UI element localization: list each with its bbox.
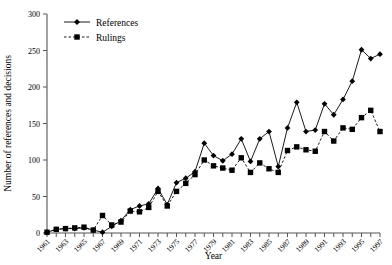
- data-point-diamond: [183, 175, 189, 181]
- x-tick-label: 1981: [220, 237, 237, 254]
- data-point-square: [313, 149, 318, 154]
- data-point-square: [239, 155, 244, 160]
- data-point-square: [229, 168, 234, 173]
- data-point-diamond: [312, 127, 318, 133]
- x-tick-label: 1975: [164, 237, 181, 254]
- data-point-diamond: [285, 125, 291, 131]
- data-point-diamond: [74, 19, 80, 25]
- data-point-square: [359, 115, 364, 120]
- data-point-square: [322, 129, 327, 134]
- x-tick-label: 1997: [368, 237, 385, 254]
- y-tick-label: 100: [28, 156, 40, 165]
- x-tick-label: 1985: [257, 237, 274, 254]
- x-axis-title: Year: [205, 251, 223, 261]
- y-tick-label: 200: [28, 83, 40, 92]
- data-point-square: [303, 147, 308, 152]
- line-chart: 0501001502002503001961196319651967196919…: [0, 0, 392, 265]
- x-tick-label: 1969: [109, 237, 126, 254]
- x-tick-label: 1983: [238, 237, 255, 254]
- data-point-diamond: [174, 180, 180, 186]
- data-point-square: [165, 203, 170, 208]
- x-tick-label: 1989: [294, 237, 311, 254]
- data-point-diamond: [220, 158, 226, 164]
- x-tick-label: 1987: [275, 237, 292, 254]
- data-point-diamond: [377, 51, 383, 57]
- x-tick-label: 1995: [349, 237, 366, 254]
- data-point-square: [220, 165, 225, 170]
- data-point-square: [257, 160, 262, 165]
- data-point-square: [331, 138, 336, 143]
- y-tick-label: 250: [28, 47, 40, 56]
- x-tick-label: 1991: [312, 237, 329, 254]
- data-point-square: [74, 34, 79, 39]
- data-point-diamond: [137, 203, 143, 209]
- data-point-diamond: [229, 151, 235, 157]
- x-tick-label: 1961: [35, 237, 52, 254]
- data-point-diamond: [303, 129, 309, 135]
- x-tick-label: 1977: [183, 237, 200, 254]
- data-point-square: [377, 129, 382, 134]
- data-point-square: [350, 127, 355, 132]
- data-point-square: [174, 189, 179, 194]
- y-axis-title: Number of references and decisions: [3, 55, 13, 192]
- y-tick-label: 150: [28, 120, 40, 129]
- data-point-diamond: [349, 78, 355, 84]
- data-point-square: [146, 205, 151, 210]
- x-tick-label: 1973: [146, 237, 163, 254]
- series-rulings: [44, 108, 382, 235]
- data-point-diamond: [100, 229, 106, 235]
- data-point-diamond: [238, 136, 244, 142]
- x-tick-label: 1993: [331, 237, 348, 254]
- data-point-square: [81, 224, 86, 229]
- data-point-square: [155, 189, 160, 194]
- y-tick-label: 50: [32, 193, 40, 202]
- data-point-square: [368, 108, 373, 113]
- series-line-rulings: [47, 110, 380, 232]
- data-point-square: [109, 222, 114, 227]
- legend-label-references: References: [96, 18, 138, 28]
- data-point-square: [72, 225, 77, 230]
- legend: ReferencesRulings: [64, 18, 138, 43]
- x-tick-label: 1967: [90, 237, 107, 254]
- data-point-square: [118, 219, 123, 224]
- data-point-square: [183, 181, 188, 186]
- data-point-square: [340, 125, 345, 130]
- data-point-diamond: [294, 99, 300, 105]
- x-tick-label: 1963: [53, 237, 70, 254]
- series-line-references: [47, 50, 380, 233]
- data-point-square: [63, 226, 68, 231]
- data-point-square: [91, 227, 96, 232]
- x-tick-label: 1971: [127, 237, 144, 254]
- data-point-diamond: [248, 159, 254, 165]
- data-point-square: [248, 170, 253, 175]
- data-point-diamond: [340, 97, 346, 103]
- chart-figure: 0501001502002503001961196319651967196919…: [0, 0, 392, 265]
- data-point-square: [192, 172, 197, 177]
- data-point-square: [128, 208, 133, 213]
- data-point-square: [44, 230, 49, 235]
- data-point-square: [137, 209, 142, 214]
- data-point-square: [54, 227, 59, 232]
- data-point-square: [276, 170, 281, 175]
- data-point-square: [202, 157, 207, 162]
- data-point-square: [266, 166, 271, 171]
- data-point-square: [285, 148, 290, 153]
- y-tick-label: 0: [36, 229, 40, 238]
- data-point-square: [100, 213, 105, 218]
- data-point-square: [294, 144, 299, 149]
- x-tick-label: 1965: [72, 237, 89, 254]
- data-point-square: [211, 163, 216, 168]
- legend-label-rulings: Rulings: [96, 33, 126, 43]
- y-tick-label: 300: [28, 10, 40, 19]
